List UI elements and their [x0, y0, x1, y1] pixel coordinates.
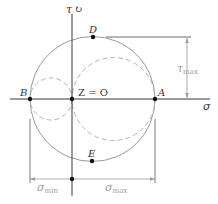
label-E: E [87, 148, 96, 159]
point-O [70, 97, 74, 101]
label-B: B [19, 87, 27, 98]
sigma-min-arrowhead-left [30, 177, 35, 180]
tau-max-arrowhead-bottom [185, 93, 188, 98]
point-D [91, 35, 95, 39]
point-E [90, 159, 94, 163]
label-D: D [88, 24, 97, 35]
sigma-min-label: σmin [37, 181, 58, 195]
dimension-origin-point [70, 177, 74, 181]
sigma-axis-label: σ [203, 100, 211, 113]
tau-max-arrowhead-top [185, 38, 188, 43]
point-A [153, 97, 157, 101]
sigma-max-label: σmax [105, 181, 127, 195]
mohr-circle-diagram: τ ↻ σ D E B A Z = O τmax σmin σmax [0, 0, 218, 204]
tau-axis-label: τ [66, 3, 73, 16]
sigma-max-arrowhead-right [150, 177, 155, 180]
point-B [28, 97, 32, 101]
label-A: A [157, 87, 165, 98]
tau-max-label: τmax [177, 62, 198, 76]
label-origin: Z = O [78, 87, 108, 98]
rotation-icon: ↻ [74, 4, 82, 15]
